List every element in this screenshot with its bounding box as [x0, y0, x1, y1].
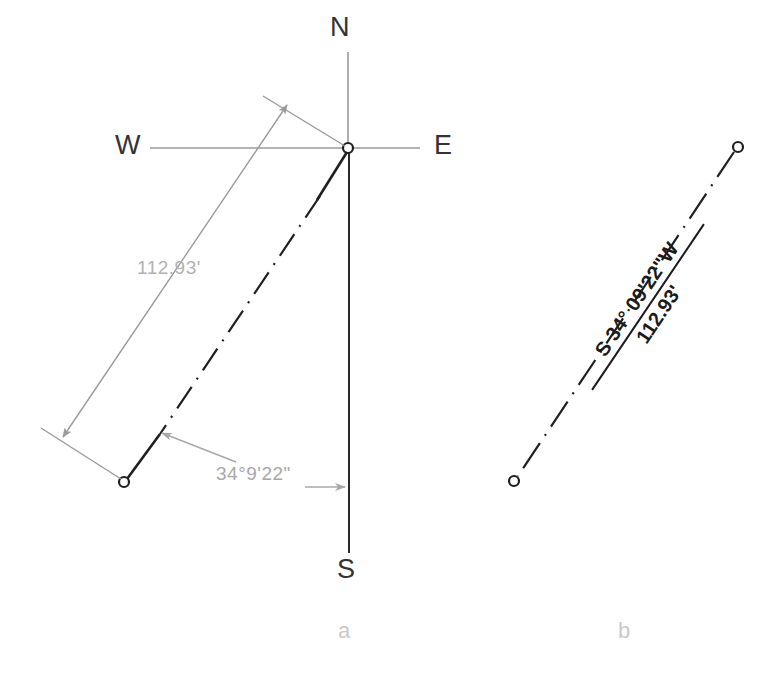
panel-b-endpoint-marker-top: [733, 142, 743, 152]
compass-label-east: E: [434, 132, 452, 159]
compass-origin-marker: [343, 143, 353, 153]
bearing-line-dashdot: [160, 196, 320, 434]
figure-root: N W E S 112.93' 34°9'22" a S 34° 09'22"W…: [0, 0, 774, 680]
bearing-line-group-a: [119, 152, 347, 487]
panel-label-a: a: [338, 620, 350, 642]
distance-dimension-label-a: 112.93': [137, 258, 201, 277]
dimension-extension-upper: [263, 96, 345, 146]
compass-label-south: S: [337, 556, 355, 583]
dimension-group: [41, 96, 345, 479]
panel-label-b: b: [618, 620, 630, 642]
compass-label-north: N: [330, 14, 350, 41]
dimension-extension-lower: [41, 428, 121, 479]
bearing-line-solid-tail: [127, 434, 160, 479]
bearing-line-solid-head: [317, 152, 347, 200]
compass-label-west: W: [115, 132, 140, 159]
angle-dimension-label-a: 34°9'22": [216, 464, 291, 483]
angle-leader-upper-left: [162, 433, 236, 462]
diagram-canvas: [0, 0, 774, 680]
panel-b-endpoint-marker-bottom: [509, 476, 519, 486]
